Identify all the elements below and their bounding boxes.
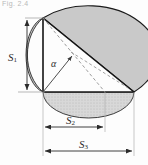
base-half-ellipse [43, 92, 134, 118]
label-alpha-angle: α [51, 59, 56, 69]
label-s3-subscript: 3 [85, 143, 89, 151]
label-s2-subscript: 2 [72, 119, 76, 127]
label-s1-subscript: 1 [14, 56, 18, 64]
left-crescent-region [26, 18, 43, 92]
label-s2: S2 [66, 115, 75, 127]
label-s1: S1 [8, 52, 17, 64]
geometry-figure: Fig. 2.4 [0, 0, 148, 165]
label-s3: S3 [79, 139, 88, 151]
figure-drawing [0, 0, 148, 165]
